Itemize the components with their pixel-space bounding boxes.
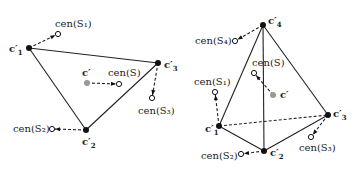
centroid-open-marker xyxy=(251,70,256,75)
cen-label: cen(S₄) xyxy=(195,36,232,46)
vertex-dot xyxy=(260,22,266,28)
vertex-label: c′1 xyxy=(9,44,23,56)
vertex-label: c′2 xyxy=(270,148,284,160)
centroid-open-marker xyxy=(149,95,154,100)
vertex-label: c′ xyxy=(82,68,91,78)
vertex-dot xyxy=(26,45,32,51)
diagram-canvas: cen(S₁)cen(S₃)cen(S₂)cen(S)cen(S₄)cen(S)… xyxy=(0,0,356,170)
centroid-open-marker xyxy=(238,151,243,156)
cen-label: cen(S₁) xyxy=(55,19,92,29)
vertex-label: c′1 xyxy=(205,124,219,136)
centroid-open-marker xyxy=(232,38,237,43)
displacement-arrow-head xyxy=(313,129,318,134)
cen-label: cen(S) xyxy=(108,68,141,78)
vertex-label: c′2 xyxy=(82,137,96,149)
cen-label: cen(S₃) xyxy=(299,143,336,153)
centroid-dot xyxy=(270,92,276,98)
displacement-arrow-head xyxy=(151,90,155,95)
vertex-dot xyxy=(325,112,331,118)
vertex-label: c′3 xyxy=(164,60,178,72)
centroid-open-marker xyxy=(55,31,60,36)
cen-label: cen(S₂) xyxy=(13,124,50,134)
vertex-dot xyxy=(155,60,161,66)
centroid-dot xyxy=(84,80,90,86)
vertex-label: c′4 xyxy=(268,16,282,28)
displacement-arrow-head xyxy=(238,35,243,39)
edge xyxy=(219,126,264,151)
edge xyxy=(263,25,328,115)
edge xyxy=(263,25,264,151)
displacement-arrow-head xyxy=(111,82,116,86)
cen-label: cen(S₂) xyxy=(201,151,238,161)
vertex-dot xyxy=(83,127,89,133)
displacement-arrow-head xyxy=(55,127,60,131)
centroid-open-marker xyxy=(308,134,313,139)
displacement-arrow-head xyxy=(244,151,249,155)
centroid-open-marker xyxy=(212,89,217,94)
displacement-arrow-head xyxy=(50,35,55,39)
cen-label: cen(S₁) xyxy=(194,77,231,87)
cen-label: cen(S) xyxy=(252,58,285,68)
edge xyxy=(29,48,86,130)
edge xyxy=(29,48,158,63)
vertex-label: c′3 xyxy=(333,109,347,121)
cen-label: cen(S₃) xyxy=(138,106,175,116)
centroid-open-marker xyxy=(49,126,54,131)
vertex-label: c′ xyxy=(280,90,289,100)
vertex-dot xyxy=(261,148,267,154)
centroid-open-marker xyxy=(116,81,121,86)
